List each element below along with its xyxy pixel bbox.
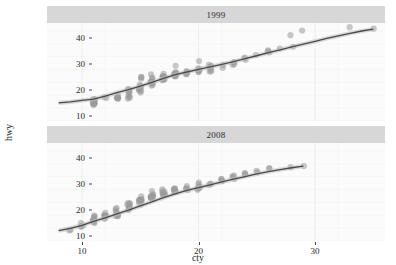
y-axis-tick-mark <box>89 184 92 185</box>
y-axis-title: hwy <box>2 0 16 265</box>
y-axis-title-text: hwy <box>4 124 15 141</box>
plot-panel-2008 <box>47 143 385 241</box>
y-axis-tick-label: 20 <box>55 85 85 95</box>
x-axis-tick-mark <box>199 242 200 245</box>
data-point <box>124 202 130 208</box>
scatter-canvas-1999 <box>47 23 385 121</box>
y-axis-tick-label: 30 <box>55 59 85 69</box>
data-point <box>299 27 305 33</box>
y-axis-tick-mark <box>89 158 92 159</box>
y-axis-tick-mark <box>89 64 92 65</box>
facet-strip-label: 2008 <box>206 130 225 140</box>
y-axis-tick-label: 30 <box>55 179 85 189</box>
y-axis-tick-label: 40 <box>55 33 85 43</box>
data-point <box>161 189 167 195</box>
facet-strip-label: 1999 <box>206 10 225 20</box>
x-axis-tick-mark <box>315 242 316 245</box>
data-point <box>113 205 119 211</box>
x-axis-tick-label: 20 <box>194 246 203 256</box>
y-axis-tick-label: 10 <box>55 231 85 241</box>
facet-strip-1999: 1999 <box>47 6 385 23</box>
facet-panel-2008: 2008 10203040 <box>47 126 385 241</box>
scatter-canvas-2008 <box>47 143 385 241</box>
plot-root: hwy cty 1999 10203040 2008 10203040 1020… <box>0 0 396 265</box>
y-axis-tick-mark <box>89 115 92 116</box>
data-point <box>91 212 97 218</box>
data-point <box>148 193 154 199</box>
y-axis-tick-label: 20 <box>55 205 85 215</box>
data-point <box>196 58 202 64</box>
data-point <box>149 188 155 194</box>
x-axis-tick-label: 10 <box>77 246 86 256</box>
x-axis-tick-mark <box>82 242 83 245</box>
data-point <box>138 76 144 82</box>
y-axis-tick-label: 40 <box>55 153 85 163</box>
y-axis-tick-mark <box>89 210 92 211</box>
x-axis-tick-label: 30 <box>311 246 320 256</box>
y-axis-tick-label: 10 <box>55 111 85 121</box>
y-axis-tick-mark <box>89 235 92 236</box>
facet-strip-2008: 2008 <box>47 126 385 143</box>
y-axis-tick-mark <box>89 90 92 91</box>
smooth-trend-line <box>59 166 304 230</box>
data-point <box>173 63 179 69</box>
plot-panel-1999 <box>47 23 385 121</box>
facet-panel-1999: 1999 10203040 <box>47 6 385 121</box>
data-point <box>172 186 178 192</box>
data-points <box>66 163 307 234</box>
data-point <box>287 32 293 38</box>
y-axis-tick-mark <box>89 38 92 39</box>
data-point <box>347 24 353 30</box>
data-point <box>137 197 143 203</box>
